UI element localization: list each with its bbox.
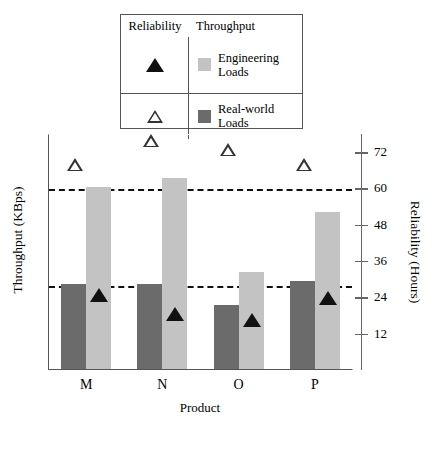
right-axis-tick-label-12: 12 xyxy=(374,327,387,340)
right-axis-tick-36 xyxy=(355,261,368,262)
right-axis-tick-72 xyxy=(355,152,368,153)
open-triangle-icon-M xyxy=(67,158,83,171)
x-axis-label-N: N xyxy=(142,377,182,393)
right-axis-tick-60 xyxy=(355,188,368,189)
right-axis-tick-label-48: 48 xyxy=(374,218,387,231)
bar-N-realworld xyxy=(137,284,162,369)
legend-row-realworld: Real-world Loads xyxy=(121,94,302,140)
filled-triangle-icon-M xyxy=(90,288,108,302)
legend-header-throughput: Throughput xyxy=(189,15,302,37)
legend-label-engineering: Engineering Loads xyxy=(218,51,302,79)
right-axis-title: Reliability (Hours) xyxy=(407,162,423,342)
chart-root: Reliability Throughput Engineering Loads… xyxy=(0,0,431,451)
open-triangle-icon-O xyxy=(220,143,236,156)
chart-legend: Reliability Throughput Engineering Loads… xyxy=(120,14,303,129)
open-triangle-icon-N xyxy=(143,134,159,147)
x-axis-label-M: M xyxy=(66,377,106,393)
x-axis-label-O: O xyxy=(219,377,259,393)
left-axis-title: Throughput (KBps) xyxy=(10,150,26,330)
open-triangle-icon xyxy=(147,110,163,123)
legend-entry-realworld: Real-world Loads xyxy=(189,94,302,140)
bar-P-engineering xyxy=(315,212,340,369)
legend-swatch-realworld xyxy=(198,110,211,123)
bar-O-realworld xyxy=(214,305,239,369)
plot-area xyxy=(48,134,353,370)
filled-triangle-icon-N xyxy=(166,307,184,321)
right-axis-tick-label-60: 60 xyxy=(374,181,387,194)
right-axis-tick-48 xyxy=(355,225,368,226)
bar-P-realworld xyxy=(290,281,315,369)
right-axis-tick-24 xyxy=(355,297,368,298)
x-axis-label-P: P xyxy=(295,377,335,393)
right-axis-tick-label-24: 24 xyxy=(374,290,387,303)
legend-header-row: Reliability Throughput xyxy=(121,15,302,37)
bar-M-engineering xyxy=(86,187,111,369)
legend-swatch-engineering xyxy=(198,58,211,71)
legend-marker-cell-filled xyxy=(121,37,189,93)
right-axis-tick-12 xyxy=(355,334,368,335)
x-axis-title: Product xyxy=(0,400,400,416)
legend-header-reliability: Reliability xyxy=(121,15,189,37)
open-triangle-icon-P xyxy=(296,158,312,171)
legend-entry-engineering: Engineering Loads xyxy=(189,37,302,93)
right-axis-tick-label-72: 72 xyxy=(374,145,387,158)
filled-triangle-icon-P xyxy=(319,291,337,305)
legend-label-realworld: Real-world Loads xyxy=(218,102,302,130)
filled-triangle-icon xyxy=(146,58,164,72)
right-axis-tick-label-36: 36 xyxy=(374,254,387,267)
filled-triangle-icon-O xyxy=(243,313,261,327)
legend-marker-cell-open xyxy=(121,94,189,140)
legend-row-engineering: Engineering Loads xyxy=(121,37,302,94)
bar-N-engineering xyxy=(162,178,187,369)
bar-M-realworld xyxy=(61,284,86,369)
